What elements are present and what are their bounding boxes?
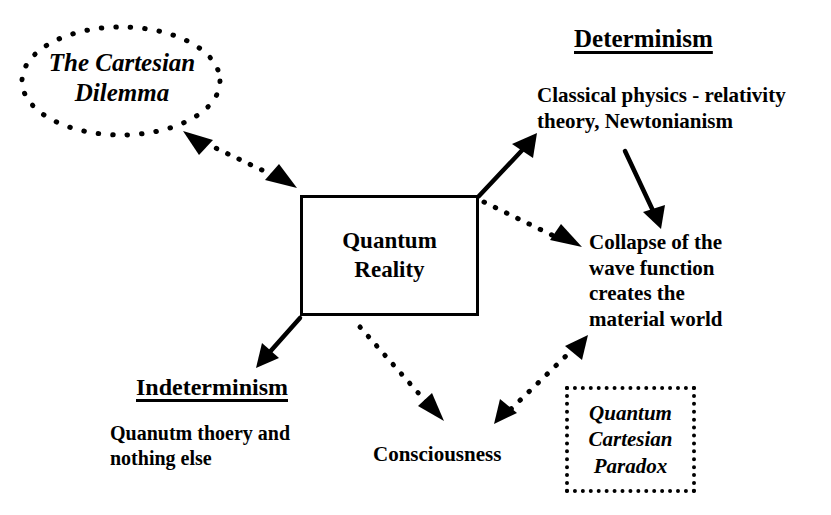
node-quantum-reality-box: Quantum Reality	[300, 195, 479, 316]
quantum-reality-diagram: The Cartesian Dilemma Determinism Classi…	[0, 0, 831, 515]
node-cartesian-dilemma-label: The Cartesian Dilemma	[36, 48, 208, 107]
edge-center-to-indeterminism	[256, 318, 300, 368]
edge-center-to-cartesian-dilemma	[183, 131, 297, 188]
edge-center-to-collapse	[484, 202, 582, 247]
node-determinism-heading: Determinism	[574, 25, 713, 53]
node-quantum-cartesian-paradox-box: Quantum Cartesian Paradox	[565, 386, 696, 493]
node-indeterminism-body: Quanutm thoery and nothing else	[110, 421, 290, 471]
edge-determinism-to-collapse	[625, 151, 665, 229]
node-determinism-body: Classical physics - relativity theory, N…	[537, 82, 786, 135]
node-indeterminism-heading: Indeterminism	[136, 374, 288, 401]
node-collapse-wave-function-body: Collapse of the wave function creates th…	[589, 230, 723, 332]
edge-center-to-determinism	[479, 133, 537, 196]
node-consciousness-label: Consciousness	[373, 443, 501, 467]
node-quantum-cartesian-paradox-label: Quantum Cartesian Paradox	[588, 400, 672, 478]
edge-center-to-consciousness	[360, 327, 444, 421]
node-quantum-reality-label: Quantum Reality	[342, 227, 437, 283]
